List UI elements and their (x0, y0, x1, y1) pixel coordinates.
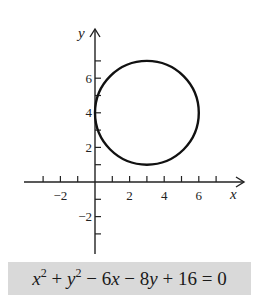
equation: x2 + y2 − 6x − 8y + 16 = 0 (32, 268, 226, 290)
x-tick-label: −2 (53, 188, 67, 203)
eq-x2: x (111, 268, 119, 289)
eq-y2: y (149, 268, 157, 289)
y-tick-label: −2 (78, 209, 92, 224)
y-tick-label: 2 (86, 140, 93, 155)
eq-plus: + (47, 268, 67, 289)
equation-box: x2 + y2 − 6x − 8y + 16 = 0 (8, 262, 251, 295)
y-tick-label: 6 (86, 71, 93, 86)
ticks (43, 61, 216, 234)
x-tick-label: 4 (161, 188, 168, 203)
x-axis-label: x (229, 186, 237, 202)
eq-minus-8: − 8 (120, 268, 150, 289)
circle-curve (95, 61, 199, 165)
tick-labels: −2246−2246 (53, 71, 202, 224)
x-tick-label: 2 (126, 188, 133, 203)
eq-rest: + 16 = 0 (158, 268, 227, 289)
graph: −2246−2246 x y (0, 0, 263, 260)
y-tick-label: 4 (86, 105, 93, 120)
eq-minus-6: − 6 (81, 268, 111, 289)
y-axis-label: y (76, 25, 85, 41)
x-tick-label: 6 (196, 188, 203, 203)
eq-x: x (32, 268, 40, 289)
